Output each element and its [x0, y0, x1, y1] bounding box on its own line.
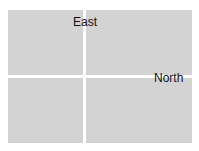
label-north: North — [154, 72, 183, 84]
quadrant-top-left — [8, 10, 83, 75]
label-east: East — [73, 16, 97, 28]
quadrant-top-right — [86, 10, 192, 75]
quadrant-bottom-left — [8, 78, 83, 143]
quadrant-bottom-right — [86, 78, 192, 143]
